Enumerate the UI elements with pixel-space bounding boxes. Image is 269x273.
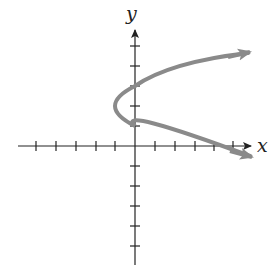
upper-curve-arrow: [228, 52, 250, 57]
parabola-graph: y x: [0, 0, 269, 273]
x-axis-label: x: [257, 134, 268, 156]
y-axis-label: y: [125, 2, 137, 24]
